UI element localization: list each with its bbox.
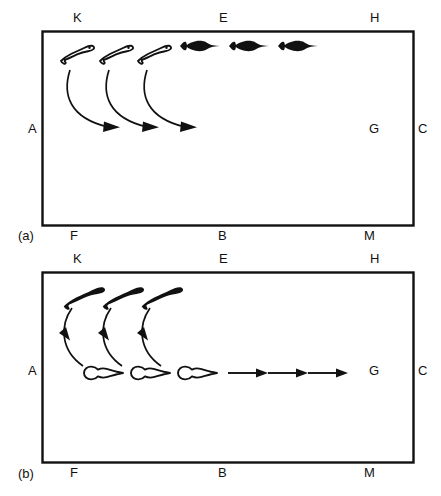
panel-a-label-H: H (370, 11, 379, 24)
panel-b-label-G: G (369, 364, 379, 377)
panel-b-label-K: K (73, 252, 82, 265)
panel-b-outline-fish-3 (178, 367, 217, 380)
panel-b-label-M: M (364, 466, 375, 479)
panel-b-straight-arrow-1 (228, 369, 268, 378)
panel-a-outline-fish-1 (61, 46, 94, 64)
panel-a-label-B: B (218, 229, 227, 242)
panel-a-frame (43, 32, 414, 226)
panel-b-label-F: F (70, 466, 78, 479)
panel-b-curved-arrow-3 (137, 308, 161, 366)
panel-a-label-G: G (369, 122, 379, 135)
figure-container: (a) K E H A G C F B M (b) K E H A G C F … (0, 0, 441, 496)
panel-a-label-F: F (70, 229, 78, 242)
panel-a-curved-arrow-2 (106, 70, 159, 132)
panel-a-label-A: A (28, 122, 37, 135)
panel-b-straight-arrow-2 (268, 369, 308, 378)
panel-b-frame (43, 273, 414, 463)
panel-a-tag: (a) (18, 228, 34, 243)
panel-b-outline-fish-1 (84, 367, 123, 380)
panel-a-curved-arrow-3 (144, 70, 197, 132)
panel-b-outline-fish-2 (131, 367, 170, 380)
panel-a-label-M: M (364, 229, 375, 242)
panel-b-tag: (b) (18, 466, 34, 481)
panel-b-label-C: C (418, 364, 427, 377)
panel-a-label-C: C (418, 122, 427, 135)
panel-b-straight-arrow-3 (308, 369, 348, 378)
panel-a-outline-fish-3 (138, 46, 171, 64)
panel-b-filled-fish-1 (64, 287, 105, 310)
panel-a-filled-fish-1 (180, 41, 220, 51)
panel-b-curved-arrow-2 (98, 308, 122, 366)
panel-b-group (43, 273, 414, 463)
panel-b-label-A: A (28, 364, 37, 377)
panel-a-outline-fish-2 (100, 46, 133, 64)
figure-drawing (0, 0, 441, 496)
panel-a-filled-fish-3 (278, 41, 318, 51)
panel-b-curved-arrow-1 (59, 308, 83, 366)
panel-b-filled-fish-2 (103, 287, 144, 310)
panel-a-label-K: K (73, 11, 82, 24)
panel-a-label-E: E (219, 11, 228, 24)
panel-b-filled-fish-3 (142, 287, 183, 310)
panel-a-group (43, 32, 414, 226)
panel-a-filled-fish-2 (229, 41, 269, 51)
panel-b-label-H: H (370, 252, 379, 265)
panel-b-label-B: B (218, 466, 227, 479)
panel-b-label-E: E (219, 252, 228, 265)
panel-a-curved-arrow-1 (67, 70, 120, 132)
